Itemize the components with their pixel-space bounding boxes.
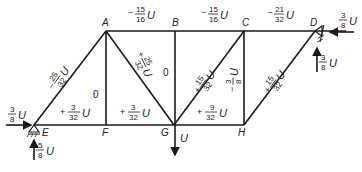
svg-text:U: U: [228, 68, 240, 76]
svg-text:U: U: [142, 107, 150, 119]
load-label-D-horizontal: 3 8 U: [339, 11, 357, 30]
svg-text:15: 15: [209, 5, 218, 14]
force-label-BC: − 15 16 U: [201, 5, 228, 24]
force-label-CG: + 15 32 U: [189, 66, 219, 98]
node-label-C: C: [242, 17, 250, 28]
member-AE: [34, 31, 106, 125]
svg-text:3: 3: [341, 11, 346, 20]
svg-text:U: U: [140, 67, 154, 79]
svg-text:+: +: [197, 107, 202, 117]
svg-text:3: 3: [10, 105, 15, 114]
svg-text:9: 9: [210, 103, 215, 112]
node-label-H: H: [238, 127, 246, 138]
force-label-AB: − 15 16 U: [128, 5, 155, 24]
truss-diagram: A B C D E F G H − 15 16 U − 15 16 U − 21…: [0, 0, 362, 172]
svg-text:U: U: [220, 9, 228, 21]
svg-text:+: +: [120, 107, 125, 117]
pin-support-E: [27, 125, 40, 137]
force-label-CH: − 3 8 U: [224, 68, 243, 92]
svg-text:−: −: [201, 7, 206, 17]
force-label-EF: + 3 32 U: [60, 103, 90, 122]
node-label-B: B: [172, 17, 179, 28]
svg-text:16: 16: [209, 15, 218, 24]
force-label-FG: + 3 32 U: [120, 103, 150, 122]
truss-members: [34, 31, 346, 125]
force-label-AG: + 25 32 U: [130, 49, 158, 81]
force-label-CD: − 21 32 U: [267, 5, 294, 24]
svg-text:32: 32: [275, 15, 284, 24]
load-label-D-vertical: 3 8 U: [319, 53, 337, 72]
svg-text:−: −: [267, 7, 272, 17]
svg-text:−: −: [128, 7, 133, 17]
svg-text:32: 32: [206, 113, 215, 122]
svg-text:32: 32: [129, 113, 138, 122]
svg-text:−: −: [227, 87, 237, 92]
svg-text:16: 16: [136, 15, 145, 24]
svg-text:U: U: [219, 107, 227, 119]
node-label-E: E: [42, 127, 49, 138]
svg-text:5: 5: [38, 141, 43, 150]
svg-text:8: 8: [38, 151, 43, 160]
svg-text:8: 8: [10, 115, 15, 124]
svg-text:3: 3: [71, 103, 76, 112]
svg-text:15: 15: [136, 5, 145, 14]
force-label-GH: + 9 32 U: [197, 103, 227, 122]
svg-text:U: U: [46, 145, 54, 157]
svg-text:3: 3: [131, 103, 136, 112]
member-AG: [106, 31, 174, 125]
force-label-BG: 0: [163, 67, 169, 78]
node-label-D: D: [310, 17, 317, 28]
svg-text:8: 8: [341, 21, 346, 30]
svg-text:U: U: [18, 109, 26, 121]
svg-text:3: 3: [321, 53, 326, 62]
svg-text:32: 32: [69, 113, 78, 122]
svg-text:U: U: [286, 9, 294, 21]
node-label-F: F: [102, 127, 109, 138]
svg-text:3: 3: [224, 79, 233, 84]
svg-text:U: U: [147, 9, 155, 21]
svg-text:21: 21: [275, 5, 284, 14]
load-label-E-horizontal: 3 8 U: [8, 105, 26, 124]
svg-text:8: 8: [234, 79, 243, 84]
svg-text:8: 8: [321, 63, 326, 72]
node-label-A: A: [101, 17, 109, 28]
svg-text:+: +: [60, 107, 65, 117]
svg-text:U: U: [82, 107, 90, 119]
load-label-E-vertical: 5 8 U: [36, 141, 54, 160]
node-label-G: G: [161, 127, 169, 138]
svg-text:U: U: [349, 15, 357, 27]
load-label-G: U: [180, 132, 188, 144]
force-label-AF: 0: [93, 89, 99, 100]
svg-text:U: U: [329, 57, 337, 69]
